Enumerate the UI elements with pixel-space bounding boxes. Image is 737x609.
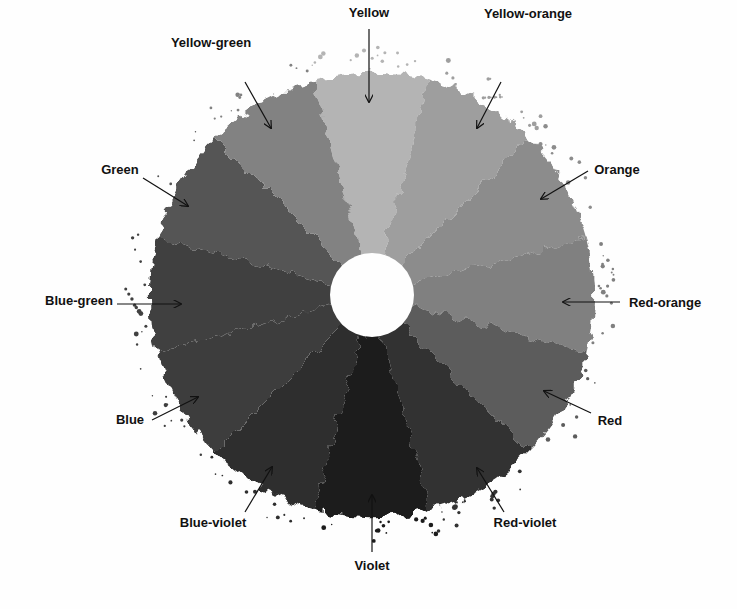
splatter-dot <box>321 525 326 530</box>
splatter-dot <box>606 258 610 262</box>
splatter-dot <box>170 420 172 422</box>
label-green: Green <box>101 162 139 177</box>
splatter-dot <box>371 57 374 60</box>
splatter-dot <box>406 63 409 66</box>
splatter-dot <box>235 92 240 97</box>
splatter-dot <box>578 160 582 164</box>
splatter-dot <box>584 369 588 373</box>
splatter-dot <box>441 511 443 513</box>
splatter-dot <box>331 524 332 525</box>
splatter-dot <box>306 70 309 73</box>
splatter-dot <box>489 78 491 80</box>
splatter-dot <box>594 382 596 384</box>
splatter-dot <box>164 425 166 427</box>
splatter-dot <box>561 423 565 427</box>
splatter-dot <box>601 263 604 266</box>
label-red-orange: Red-orange <box>629 295 701 310</box>
splatter-dot <box>266 517 267 518</box>
splatter-dot <box>613 274 615 276</box>
splatter-dot <box>520 110 523 113</box>
splatter-dot <box>601 332 604 335</box>
splatter-dot <box>387 520 390 523</box>
splatter-dot <box>140 368 142 370</box>
splatter-dot <box>273 502 277 506</box>
splatter-dot <box>180 418 183 421</box>
splatter-dot <box>169 183 172 186</box>
splatter-dot <box>231 110 232 111</box>
splatter-dot <box>303 517 305 519</box>
splatter-dot <box>228 480 232 484</box>
splatter-dot <box>496 96 498 98</box>
label-yellow-orange: Yellow-orange <box>484 6 572 21</box>
splatter-dot <box>350 59 352 61</box>
splatter-dot <box>543 124 547 128</box>
splatter-dot <box>143 283 146 286</box>
splatter-dot <box>518 469 522 473</box>
splatter-dot <box>240 94 243 97</box>
splatter-dot <box>538 142 542 146</box>
splatter-dot <box>137 233 139 235</box>
splatter-dot <box>318 55 323 60</box>
splatter-dot <box>546 437 551 442</box>
splatter-dot <box>357 54 359 56</box>
splatter-dot <box>490 96 492 98</box>
splatter-dot <box>144 325 147 328</box>
splatter-dot <box>127 292 130 295</box>
splatter-dot <box>611 271 613 273</box>
splatter-dot <box>152 395 153 396</box>
splatter-dot <box>429 523 434 528</box>
splatter-dot <box>296 67 298 69</box>
splatter-dot <box>200 454 202 456</box>
splatter-dot <box>499 94 501 96</box>
splatter-dot <box>414 60 416 62</box>
splatter-dot <box>457 511 460 514</box>
splatter-dot <box>157 175 159 177</box>
splatter-dot <box>377 55 379 57</box>
splatter-dot <box>210 456 213 459</box>
splatter-dot <box>237 109 240 112</box>
splatter-dot <box>153 411 158 416</box>
splatter-dot <box>222 475 224 477</box>
splatter-dot <box>421 519 425 523</box>
splatter-dot <box>134 332 139 337</box>
splatter-dot <box>484 97 486 99</box>
splatter-dot <box>183 425 185 427</box>
splatter-dot <box>276 515 280 519</box>
splatter-dot <box>195 131 196 132</box>
splatter-dot <box>532 121 537 126</box>
center-hole <box>330 253 414 337</box>
label-orange: Orange <box>594 162 640 177</box>
splatter-dot <box>453 504 458 509</box>
splatter-dot <box>569 404 571 406</box>
splatter-dot <box>528 124 531 127</box>
splatter-dot <box>381 60 385 64</box>
splatter-dot <box>603 255 605 257</box>
splatter-dot <box>375 529 378 532</box>
splatter-dot <box>606 284 609 287</box>
splatter-dot <box>141 331 143 333</box>
splatter-dot <box>383 51 386 54</box>
splatter-dot <box>573 434 577 438</box>
splatter-dot <box>424 517 427 520</box>
splatter-dot <box>545 144 546 145</box>
splatter-dot <box>535 126 539 130</box>
splatter-dot <box>220 115 222 117</box>
splatter-dot <box>599 287 602 290</box>
splatter-dot <box>575 415 578 418</box>
splatter-dot <box>519 489 521 491</box>
splatter-dot <box>379 521 381 523</box>
label-red-violet: Red-violet <box>494 515 558 530</box>
splatter-dot <box>499 96 502 99</box>
splatter-dot <box>193 139 195 141</box>
splatter-dot <box>362 48 366 52</box>
splatter-dot <box>598 285 601 288</box>
splatter-dot <box>569 157 573 161</box>
splatter-dot <box>136 343 138 345</box>
splatter-dot <box>210 107 213 110</box>
splatter-dot <box>137 309 142 314</box>
label-blue-violet: Blue-violet <box>180 515 247 530</box>
splatter-dot <box>124 288 127 291</box>
splatter-dot <box>501 96 503 98</box>
splatter-dot <box>245 490 249 494</box>
label-blue: Blue <box>116 412 144 427</box>
